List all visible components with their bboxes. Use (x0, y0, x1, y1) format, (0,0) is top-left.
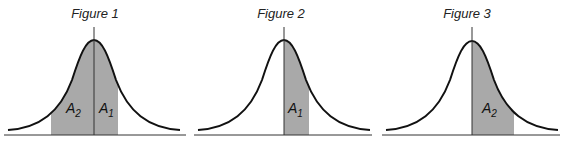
figure-1-normal-curve: A2 A1 (0, 0, 190, 141)
figure-1-panel: Figure 1 A2 A1 (0, 0, 190, 141)
figure-2-panel: Figure 2 A1 (186, 0, 376, 141)
figure-3-normal-curve: A2 (372, 0, 562, 141)
figure-3-panel: Figure 3 A2 (372, 0, 562, 141)
figure-2-normal-curve: A1 (186, 0, 376, 141)
